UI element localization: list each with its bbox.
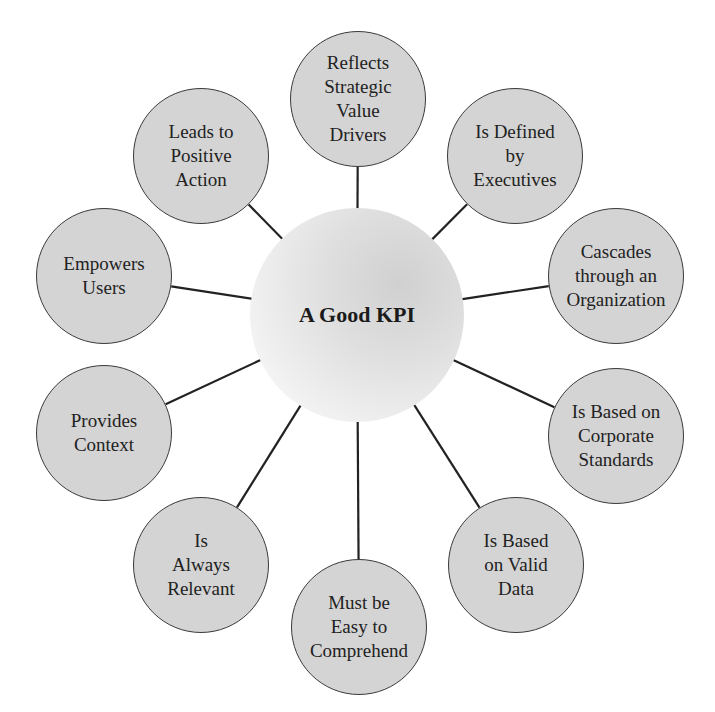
connector-line xyxy=(451,286,549,301)
connector-line xyxy=(171,286,263,300)
connector-line xyxy=(358,410,359,559)
kpi-attribute-node: Provides Context xyxy=(36,365,172,501)
kpi-attribute-node: Reflects Strategic Value Drivers xyxy=(290,31,426,167)
kpi-attribute-node: Must be Easy to Comprehend xyxy=(291,559,427,695)
connector-line xyxy=(443,355,554,407)
node-label: Reflects Strategic Value Drivers xyxy=(324,51,392,147)
kpi-diagram: Reflects Strategic Value DriversIs Defin… xyxy=(0,0,715,712)
kpi-attribute-node: Is Defined by Executives xyxy=(447,88,583,224)
connector-line xyxy=(166,355,271,404)
kpi-attribute-node: Empowers Users xyxy=(36,208,172,344)
node-label: Cascades through an Organization xyxy=(567,240,666,312)
node-label: Is Always Relevant xyxy=(167,529,235,601)
node-label: Empowers Users xyxy=(63,252,144,300)
node-label: Is Based on Valid Data xyxy=(484,529,549,601)
center-node: A Good KPI xyxy=(250,208,464,422)
kpi-attribute-node: Cascades through an Organization xyxy=(548,208,684,344)
node-label: Must be Easy to Comprehend xyxy=(310,591,408,663)
node-label: Is Based on Corporate Standards xyxy=(572,400,661,472)
node-label: Is Defined by Executives xyxy=(473,120,556,192)
node-label: Leads to Positive Action xyxy=(169,120,234,192)
center-label: A Good KPI xyxy=(299,302,415,328)
kpi-attribute-node: Leads to Positive Action xyxy=(133,88,269,224)
connector-line xyxy=(237,396,307,508)
node-label: Provides Context xyxy=(71,409,138,457)
kpi-attribute-node: Is Based on Valid Data xyxy=(448,497,584,633)
kpi-attribute-node: Is Based on Corporate Standards xyxy=(548,368,684,504)
kpi-attribute-node: Is Always Relevant xyxy=(133,497,269,633)
connector-line xyxy=(408,395,480,507)
